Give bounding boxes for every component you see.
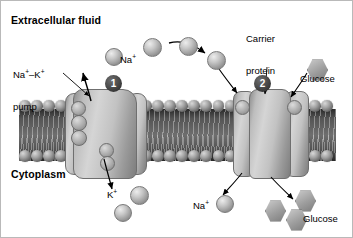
arrow-potassium-in: [104, 159, 112, 189]
potassium-label-superscript: +: [113, 188, 117, 195]
arrow-sodium-out: [83, 73, 91, 101]
glucose-label-extracellular: Glucose: [300, 74, 335, 85]
sodium-ion-sphere: [216, 195, 234, 213]
arrow-sodium-release: [223, 173, 242, 195]
sodium-label-extracellular: Na+: [120, 55, 136, 66]
carrier-protein-label-line2: protein: [246, 66, 275, 77]
potassium-label: K+: [107, 190, 117, 201]
sodium-label-superscript: +: [132, 53, 136, 60]
arrow-glucose-release: [271, 177, 293, 199]
sodium-label-text: Na: [120, 54, 132, 65]
leader-pump-label: [63, 73, 89, 96]
potassium-ion-sphere: [130, 186, 149, 205]
carrier-protein-label: Carrier protein: [246, 13, 275, 98]
cytoplasm-label: Cytoplasm: [11, 169, 66, 181]
na-k-pump-label-line1: Na+–K+: [13, 70, 45, 81]
membrane-transport-figure: 1 2 Extracellular fluid Cytoplasm Na+–K+…: [0, 0, 353, 238]
step-marker-1: 1: [105, 75, 122, 92]
extracellular-fluid-label: Extracellular fluid: [11, 15, 101, 27]
na-k-pump-na-text: Na: [13, 69, 25, 80]
na-k-pump-label-line2: pump: [13, 102, 45, 113]
carrier-protein-label-line1: Carrier: [246, 34, 275, 45]
sodium-ion-sphere: [179, 37, 198, 56]
glucose-label-cytoplasm: Glucose: [303, 214, 338, 225]
sodium-ion-transit-sphere: [207, 51, 226, 70]
na-k-pump-k-superscript: +: [41, 68, 45, 75]
sodium-label-superscript: +: [205, 199, 209, 206]
sodium-label-text: Na: [193, 200, 205, 211]
na-k-pump-label: Na+–K+ pump: [13, 49, 45, 134]
sodium-ion-sphere: [143, 38, 162, 57]
sodium-label-cytoplasm: Na+: [193, 201, 209, 212]
potassium-ion-sphere: [114, 204, 132, 222]
na-k-pump-k-text: –K: [29, 69, 41, 80]
